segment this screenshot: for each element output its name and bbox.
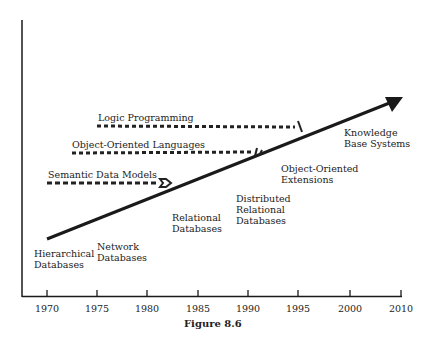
oo-languages-arrow bbox=[72, 152, 253, 153]
stage-distributed-relational: Distributed Relational Databases bbox=[236, 193, 291, 226]
logic-programming-arrow bbox=[97, 126, 295, 127]
stage-relational: Relational Databases bbox=[172, 212, 222, 234]
stage-knowledge-base-systems: Knowledge Base Systems bbox=[344, 127, 410, 149]
tick-label-2010: 2010 bbox=[389, 303, 413, 314]
stage-object-oriented-extensions: Object-Oriented Extensions bbox=[281, 163, 358, 185]
logic-programming-end-mark bbox=[298, 121, 302, 132]
tick-label-1990: 1990 bbox=[236, 303, 260, 314]
tick-label-1985: 1985 bbox=[186, 303, 210, 314]
figure-caption: Figure 8.6 bbox=[184, 318, 242, 329]
semantic-models-arrow-head bbox=[160, 179, 171, 187]
influence-label-oo-languages: Object-Oriented Languages bbox=[72, 139, 205, 150]
stage-network: Network Databases bbox=[97, 241, 147, 263]
tick-label-2000: 2000 bbox=[338, 303, 362, 314]
influence-label-semantic-models: Semantic Data Models bbox=[48, 169, 157, 180]
tick-label-1975: 1975 bbox=[85, 303, 109, 314]
influence-label-logic-programming: Logic Programming bbox=[98, 112, 194, 123]
tick-label-1970: 1970 bbox=[35, 303, 59, 314]
tick-label-1980: 1980 bbox=[135, 303, 159, 314]
stage-hierarchical: Hierarchical Databases bbox=[34, 248, 94, 270]
tick-label-1995: 1995 bbox=[286, 303, 310, 314]
